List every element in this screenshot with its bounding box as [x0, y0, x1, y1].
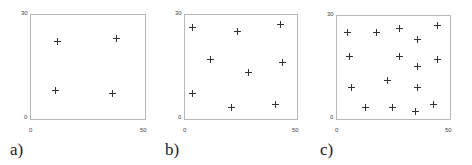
panel-label: a) [10, 140, 23, 160]
data-point-plus-marker [245, 69, 252, 76]
data-point-plus-marker [228, 104, 235, 111]
data-point-plus-marker [272, 101, 279, 108]
data-point-plus-marker [277, 21, 284, 28]
x-tick-min: 0 [335, 127, 338, 133]
data-point-plus-marker [430, 101, 437, 108]
data-point-plus-marker [414, 84, 421, 91]
y-tick-max: 30 [21, 10, 28, 16]
data-point-plus-marker [396, 25, 403, 32]
scatter-panel-c: 30 0 0 50 c) [310, 0, 467, 165]
data-point-plus-marker [384, 77, 391, 84]
x-tick-max: 50 [445, 127, 452, 133]
data-point-plus-marker [207, 56, 214, 63]
data-point-plus-marker [52, 87, 59, 94]
data-point-plus-marker [346, 53, 353, 60]
data-point-plus-marker [348, 84, 355, 91]
data-point-plus-marker [434, 22, 441, 29]
data-point-plus-marker [189, 24, 196, 31]
panel-label: b) [165, 140, 179, 160]
data-point-plus-marker [113, 35, 120, 42]
x-tick-min: 0 [29, 127, 32, 133]
x-tick-min: 0 [183, 127, 186, 133]
y-tick-max: 30 [175, 10, 182, 16]
plot-area [30, 14, 146, 120]
data-point-plus-marker [234, 28, 241, 35]
scatter-panel-b: 30 0 0 50 b) [155, 0, 312, 165]
data-point-plus-marker [414, 63, 421, 70]
data-point-plus-marker [373, 29, 380, 36]
scatter-panel-a: 30 0 0 50 a) [0, 0, 157, 165]
y-tick-min: 0 [178, 114, 181, 120]
data-point-plus-marker [54, 38, 61, 45]
y-tick-min: 0 [24, 114, 27, 120]
data-point-plus-marker [362, 104, 369, 111]
data-point-plus-marker [412, 108, 419, 115]
data-point-plus-marker [396, 53, 403, 60]
data-point-plus-marker [109, 90, 116, 97]
y-tick-min: 0 [330, 114, 333, 120]
x-tick-max: 50 [292, 127, 299, 133]
data-point-plus-marker [344, 29, 351, 36]
x-tick-max: 50 [140, 127, 147, 133]
data-point-plus-marker [279, 59, 286, 66]
y-tick-max: 30 [327, 11, 334, 17]
data-point-plus-marker [434, 56, 441, 63]
panel-label: c) [320, 140, 333, 160]
data-point-plus-marker [189, 90, 196, 97]
data-point-plus-marker [389, 104, 396, 111]
data-point-plus-marker [414, 36, 421, 43]
